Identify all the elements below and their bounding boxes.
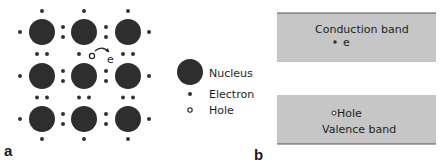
conduction-band-label: Conduction band	[315, 23, 409, 36]
valence-hole-marker	[332, 111, 336, 115]
electron	[18, 117, 22, 121]
electron	[40, 9, 44, 13]
conduction-electron-marker	[333, 40, 337, 44]
electron	[61, 112, 65, 116]
electron	[131, 52, 135, 56]
conduction-electron-label: e	[343, 36, 350, 49]
electron	[18, 30, 22, 34]
hole-electron-transition: e	[89, 48, 114, 66]
nucleus	[115, 63, 141, 89]
legend-hole-icon	[188, 108, 192, 112]
electron	[82, 137, 86, 141]
electron	[45, 52, 49, 56]
electron	[147, 74, 151, 78]
crystal-lattice	[18, 9, 151, 141]
electron	[126, 9, 130, 13]
electron	[35, 52, 39, 56]
electron	[87, 96, 91, 100]
legend-nucleus-label: Nucleus	[209, 67, 253, 80]
electron	[126, 137, 130, 141]
valence-hole-label: Hole	[337, 107, 362, 120]
electron	[104, 25, 108, 29]
electron	[82, 9, 86, 13]
panel-a-label: a	[4, 142, 13, 159]
nucleus	[71, 19, 97, 45]
electron	[147, 117, 151, 121]
nucleus	[71, 106, 97, 132]
panel-b-label: b	[254, 146, 263, 163]
electron	[131, 96, 135, 100]
semiconductor-diagram: e Nucleus Electron Hole a Conduction ban…	[0, 0, 447, 165]
hole-marker	[89, 53, 94, 58]
electron	[61, 25, 65, 29]
electron	[104, 79, 108, 83]
legend: Nucleus Electron Hole	[177, 59, 254, 117]
electron	[121, 52, 125, 56]
electron	[77, 52, 81, 56]
nucleus	[29, 19, 55, 45]
legend-electron-icon	[188, 92, 192, 96]
electron	[104, 35, 108, 39]
electron	[61, 122, 65, 126]
nucleus	[71, 63, 97, 89]
electron	[61, 69, 65, 73]
electron	[104, 122, 108, 126]
electron	[61, 79, 65, 83]
valence-band: Hole Valence band	[277, 95, 436, 144]
electron	[104, 69, 108, 73]
electron	[121, 96, 125, 100]
electron	[104, 112, 108, 116]
electron	[35, 96, 39, 100]
valence-band-label: Valence band	[322, 123, 396, 136]
electron	[18, 74, 22, 78]
nucleus	[115, 19, 141, 45]
moving-electron-label: e	[107, 53, 114, 66]
legend-nucleus-icon	[177, 59, 203, 85]
electron	[45, 96, 49, 100]
legend-electron-label: Electron	[209, 88, 254, 101]
conduction-band: Conduction band e	[277, 13, 436, 62]
nucleus	[115, 106, 141, 132]
nucleus	[29, 106, 55, 132]
electron	[77, 96, 81, 100]
nucleus	[29, 63, 55, 89]
electron	[61, 35, 65, 39]
electron	[147, 30, 151, 34]
electron	[40, 137, 44, 141]
legend-hole-label: Hole	[209, 104, 234, 117]
